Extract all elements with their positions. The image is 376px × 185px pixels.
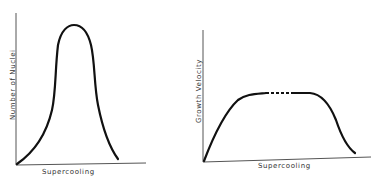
growth-curve-falling [292,93,355,153]
nuclei-curve [17,25,118,164]
left-chart [16,13,146,165]
right-y-axis-label: Growth Velocity [195,69,203,123]
left-x-axis-label: Supercooling [42,168,95,176]
growth-curve-rising [204,93,266,161]
left-y-axis-label: Number of Nuclei [9,60,17,120]
right-chart [203,30,371,162]
left-x-axis [16,163,146,165]
plots-canvas [0,0,376,185]
right-x-axis-label: Supercooling [258,162,311,170]
figure: Number of Nuclei Supercooling Growth Vel… [0,0,376,185]
